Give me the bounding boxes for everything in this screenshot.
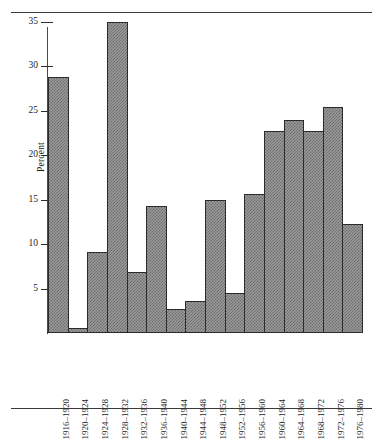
bar bbox=[303, 131, 324, 333]
bar bbox=[127, 272, 148, 333]
x-axis-tick-label: 1960–1964 bbox=[278, 399, 287, 440]
x-axis-tick-label: 1956–1960 bbox=[258, 399, 267, 440]
x-axis-tick-label: 1932–1936 bbox=[140, 399, 149, 440]
bar bbox=[68, 328, 89, 333]
x-axis-tick-label: 1968–1972 bbox=[317, 399, 326, 440]
x-axis-tick-label: 1948–1952 bbox=[219, 399, 228, 440]
y-axis-tick-label-text: 5 bbox=[16, 284, 38, 294]
bar bbox=[225, 293, 246, 333]
bar bbox=[87, 252, 108, 333]
y-axis-tick-label-text: 25 bbox=[16, 106, 38, 116]
y-axis-tick-label-text: 30 bbox=[16, 61, 38, 71]
bar-series bbox=[48, 26, 362, 333]
bar bbox=[48, 77, 69, 333]
bar bbox=[107, 22, 128, 334]
bar bbox=[323, 107, 344, 333]
x-axis-tick-label: 1972–1976 bbox=[337, 399, 346, 440]
x-axis-tick-label: 1916–1920 bbox=[62, 399, 71, 440]
bar bbox=[146, 206, 167, 333]
x-axis-tick-label: 1976–1980 bbox=[356, 399, 365, 440]
y-axis-tick-label-text: 10 bbox=[16, 239, 38, 249]
y-axis-tick-label-text: 35 bbox=[16, 17, 38, 27]
bar bbox=[185, 301, 206, 333]
bar bbox=[205, 200, 226, 333]
bar bbox=[244, 194, 265, 333]
bar bbox=[264, 131, 285, 333]
y-axis-tick bbox=[41, 22, 53, 23]
x-axis-labels: 1916–19201920–19241924–19281928–19321932… bbox=[48, 337, 362, 403]
x-axis-tick-label: 1944–1948 bbox=[199, 399, 208, 440]
x-axis-tick-label: 1940–1944 bbox=[180, 399, 189, 440]
bar bbox=[342, 224, 363, 333]
y-axis-title: Percent bbox=[36, 112, 46, 202]
x-axis-tick-label: 1936–1940 bbox=[160, 399, 169, 440]
top-rule bbox=[11, 12, 372, 13]
x-axis-tick-label: 1920–1924 bbox=[81, 399, 90, 440]
bar bbox=[284, 120, 305, 333]
x-axis-tick-label: 1952–1956 bbox=[238, 399, 247, 440]
x-axis-tick-label: 1928–1932 bbox=[121, 399, 130, 440]
x-axis-tick-label: 1924–1928 bbox=[101, 399, 110, 440]
bar bbox=[166, 309, 187, 333]
y-axis-tick-label-text: 15 bbox=[16, 195, 38, 205]
y-axis-tick-label-text: 20 bbox=[16, 150, 38, 160]
x-axis-tick-label: 1964–1968 bbox=[297, 399, 306, 440]
